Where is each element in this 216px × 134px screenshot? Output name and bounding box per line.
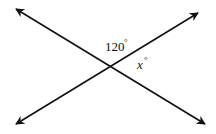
angle-label-x: x <box>136 57 143 72</box>
angle-label-120: 120 <box>105 39 125 54</box>
intersecting-lines-diagram: 120 ° x ° <box>0 0 216 134</box>
degree-mark-x: ° <box>144 55 148 65</box>
degree-mark-120: ° <box>124 37 128 47</box>
line-b <box>16 13 198 124</box>
